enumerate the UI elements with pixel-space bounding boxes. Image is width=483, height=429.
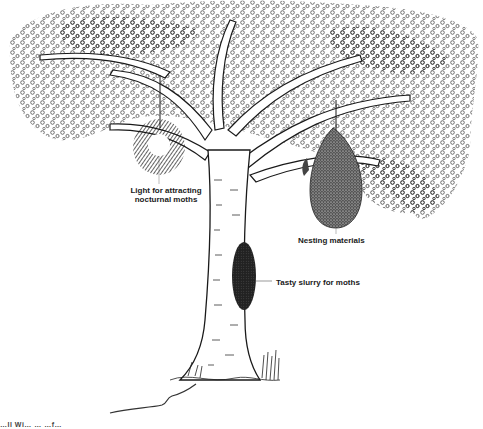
label-line-2: nocturnal moths: [118, 195, 214, 204]
power-cord: [110, 384, 196, 413]
tree-illustration: [0, 0, 483, 429]
slurry-patch: [232, 242, 256, 310]
cropped-caption: …ll Wi… … …f…: [0, 421, 62, 428]
light-bulb-icon: [148, 134, 170, 156]
label-moth-light: Light for attracting nocturnal moths: [118, 186, 214, 204]
label-line-1: Light for attracting: [118, 186, 214, 195]
label-slurry: Tasty slurry for moths: [276, 278, 360, 287]
label-nesting-materials: Nesting materials: [298, 236, 365, 245]
